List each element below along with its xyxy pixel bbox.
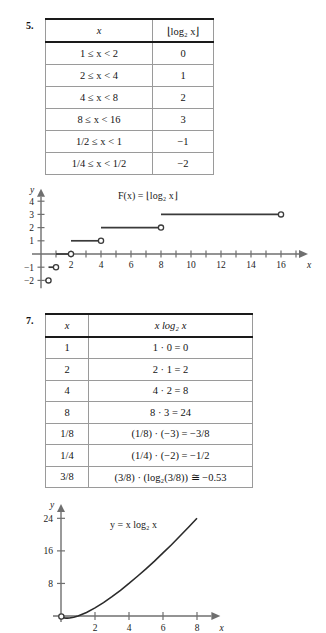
- column-header-x: x: [46, 314, 89, 337]
- y-axis-tick-label: −2: [24, 276, 34, 286]
- open-endpoint-circle: [53, 265, 58, 270]
- x-axis-label: x: [218, 623, 224, 633]
- exercise-5-table: x ⌊log₂ x⌋ 1 ≤ x < 2 0 2 ≤ x < 4 1 4 ≤ x…: [45, 18, 214, 175]
- x-axis-tick-label: 16: [276, 260, 286, 270]
- cell-value: 3: [153, 109, 214, 131]
- x-axis-tick-label: 4: [99, 260, 104, 270]
- table-row: 4 4 · 2 = 8: [46, 380, 253, 402]
- cell-value: 0: [153, 42, 214, 65]
- open-endpoint-circle: [98, 238, 103, 243]
- y-axis-tick-label: −1: [24, 263, 34, 273]
- cell-x: 3/8: [46, 466, 89, 488]
- x-axis-tick-label: 2: [93, 623, 98, 633]
- table-row: 1/4 (1/4) · (−2) = −1/2: [46, 445, 253, 467]
- exercise-7-number: 7.: [26, 315, 34, 326]
- cell-value: 1: [153, 65, 214, 87]
- cell-expression: (3/8) · (log₂(3/8)) ≅ −0.53: [89, 466, 253, 488]
- table-row: 3/8 (3/8) · (log₂(3/8)) ≅ −0.53: [46, 466, 253, 488]
- x-axis-tick-label: 6: [161, 623, 166, 633]
- table-header-row: x x log₂ x: [46, 314, 253, 337]
- table-row: 1/2 ≤ x < 1 −1: [46, 131, 214, 153]
- y-axis-tick-label: 24: [44, 514, 54, 524]
- function-curve: [61, 518, 197, 618]
- table-row: 8 8 · 3 = 24: [46, 402, 253, 424]
- table-row: 2 ≤ x < 4 1: [46, 65, 214, 87]
- table-row: 1/8 (1/8) · (−3) = −3/8: [46, 423, 253, 445]
- function-annotation: F(x) = ⌊log₂ x⌋: [118, 190, 178, 202]
- x-axis-tick-label: 10: [186, 260, 196, 270]
- exercise-5-step-function-graph: 246810121416−2−11234 y x F(x) = ⌊log₂ x⌋: [0, 176, 326, 300]
- cell-expression: 2 · 1 = 2: [89, 359, 253, 381]
- cell-x-range: 1 ≤ x < 2: [46, 42, 153, 65]
- open-endpoint-circle: [278, 212, 283, 217]
- cell-x: 1/4: [46, 445, 89, 467]
- cell-expression: 1 · 0 = 0: [89, 337, 253, 359]
- cell-x: 1: [46, 337, 89, 359]
- cell-expression: 8 · 3 = 24: [89, 402, 253, 424]
- cell-value: 2: [153, 87, 214, 109]
- cell-value: −1: [153, 131, 214, 153]
- y-axis-tick-label: 3: [29, 210, 34, 220]
- y-axis-arrow: [57, 504, 65, 512]
- exercise-7-table: x x log₂ x 1 1 · 0 = 0 2 2 · 1 = 2 4 4 ·…: [45, 313, 253, 488]
- open-endpoint-circle: [68, 251, 73, 256]
- curve-svg: 246881624 y x y = x log₂ x: [0, 486, 326, 633]
- textbook-page: 5. x ⌊log₂ x⌋ 1 ≤ x < 2 0 2 ≤ x < 4 1: [0, 0, 326, 633]
- y-axis-arrow: [37, 189, 45, 197]
- cell-expression: (1/8) · (−3) = −3/8: [89, 423, 253, 445]
- cell-x: 4: [46, 380, 89, 402]
- y-axis-label: y: [49, 500, 55, 510]
- exercise-7-curve-graph: 246881624 y x y = x log₂ x: [0, 486, 326, 633]
- cell-expression: 4 · 2 = 8: [89, 380, 253, 402]
- cell-x-range: 2 ≤ x < 4: [46, 65, 153, 87]
- column-header-xlog2x: x log₂ x: [89, 314, 253, 337]
- open-endpoint-circle: [158, 225, 163, 230]
- table-row: 4 ≤ x < 8 2: [46, 87, 214, 109]
- column-header-x: x: [46, 19, 153, 42]
- step-function-svg: 246810121416−2−11234 y x F(x) = ⌊log₂ x⌋: [0, 176, 326, 300]
- x-axis-label: x: [306, 260, 312, 270]
- table-row: 1/4 ≤ x < 1/2 −2: [46, 153, 214, 175]
- x-axis-tick-label: 8: [159, 260, 164, 270]
- x-axis-tick-label: 2: [69, 260, 74, 270]
- x-axis-tick-label: 4: [127, 623, 132, 633]
- table-row: 1 ≤ x < 2 0: [46, 42, 214, 65]
- cell-x-range: 1/4 ≤ x < 1/2: [46, 153, 153, 175]
- x-axis-tick-label: 12: [216, 260, 226, 270]
- x-axis-arrow: [211, 612, 220, 620]
- function-annotation: y = x log₂ x: [110, 519, 157, 530]
- cell-x-range: 1/2 ≤ x < 1: [46, 131, 153, 153]
- cell-x-range: 4 ≤ x < 8: [46, 87, 153, 109]
- cell-x-range: 8 ≤ x < 16: [46, 109, 153, 131]
- cell-x: 8: [46, 402, 89, 424]
- x-axis-tick-label: 8: [195, 623, 200, 633]
- y-axis-tick-label: 2: [29, 223, 34, 233]
- column-header-floor-log2x: ⌊log₂ x⌋: [153, 19, 214, 42]
- y-axis-tick-label: 8: [48, 579, 53, 589]
- exercise-5-table-body: 1 ≤ x < 2 0 2 ≤ x < 4 1 4 ≤ x < 8 2 8 ≤ …: [46, 42, 214, 175]
- y-axis-tick-label: 1: [29, 236, 34, 246]
- cell-x: 2: [46, 359, 89, 381]
- y-axis-tick-label: 4: [29, 197, 34, 207]
- open-endpoint-circle: [46, 278, 51, 283]
- exercise-5-number: 5.: [26, 20, 34, 31]
- table-header-row: x ⌊log₂ x⌋: [46, 19, 214, 42]
- table-row: 1 1 · 0 = 0: [46, 337, 253, 359]
- cell-x: 1/8: [46, 423, 89, 445]
- curve-origin-marker: [59, 614, 64, 619]
- cell-value: −2: [153, 153, 214, 175]
- x-axis-tick-label: 6: [129, 260, 134, 270]
- x-axis-arrow: [299, 250, 308, 258]
- exercise-7-table-body: 1 1 · 0 = 0 2 2 · 1 = 2 4 4 · 2 = 8 8 8 …: [46, 337, 253, 488]
- table-row: 2 2 · 1 = 2: [46, 359, 253, 381]
- table-row: 8 ≤ x < 16 3: [46, 109, 214, 131]
- x-axis-tick-label: 14: [246, 260, 256, 270]
- cell-expression: (1/4) · (−2) = −1/2: [89, 445, 253, 467]
- y-axis-label: y: [29, 185, 35, 195]
- y-axis-tick-label: 16: [44, 546, 54, 556]
